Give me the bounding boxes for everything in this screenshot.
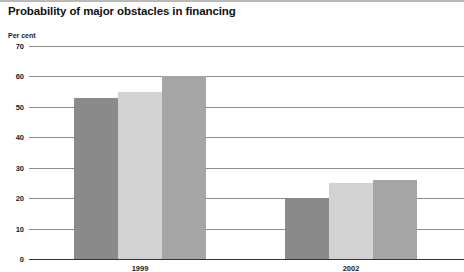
gridline-0-baseline: 0 bbox=[29, 259, 464, 260]
y-tick-label-50: 50 bbox=[16, 102, 24, 111]
gridline-70: 70 bbox=[29, 46, 464, 47]
bar-2002-series-3 bbox=[373, 180, 417, 259]
y-tick-label-10: 10 bbox=[16, 224, 24, 233]
y-tick-label-0: 0 bbox=[20, 255, 24, 264]
bar-2002-series-2 bbox=[329, 183, 373, 259]
y-tick-label-70: 70 bbox=[16, 42, 24, 51]
y-tick-label-30: 30 bbox=[16, 163, 24, 172]
y-axis-unit-label: Per cent bbox=[8, 32, 36, 39]
x-tick-label-2002: 2002 bbox=[343, 264, 360, 272]
x-tick-label-1999: 1999 bbox=[132, 264, 149, 272]
bar-1999-series-2 bbox=[118, 92, 162, 259]
chart-title: Probability of major obstacles in financ… bbox=[8, 5, 236, 17]
plot-area: 70 60 50 40 30 20 10 0 1999 bbox=[29, 46, 464, 259]
bar-1999-series-3 bbox=[162, 76, 206, 259]
y-tick-label-20: 20 bbox=[16, 194, 24, 203]
bar-2002-series-1 bbox=[285, 198, 329, 259]
top-divider-rule bbox=[0, 0, 464, 2]
y-tick-label-60: 60 bbox=[16, 72, 24, 81]
chart-figure: Probability of major obstacles in financ… bbox=[0, 0, 464, 272]
y-tick-label-40: 40 bbox=[16, 133, 24, 142]
bar-1999-series-1 bbox=[74, 98, 118, 259]
gridline-60: 60 bbox=[29, 76, 464, 77]
